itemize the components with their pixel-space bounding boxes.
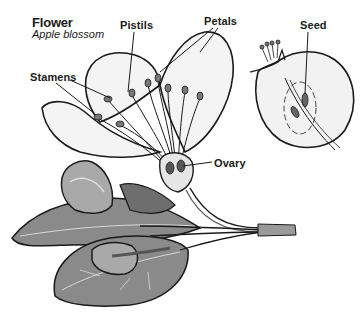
label-petals: Petals (204, 15, 237, 27)
diagram-canvas: Flower Apple blossom Pistils Petals Seed… (0, 0, 364, 324)
ovary (160, 153, 194, 192)
label-seed: Seed (300, 19, 327, 31)
label-pistils: Pistils (120, 19, 153, 31)
label-ovary: Ovary (214, 157, 246, 169)
flower-illustration (0, 0, 364, 324)
diagram-subtitle: Apple blossom (32, 28, 104, 40)
fruit-cross-section (250, 40, 354, 150)
label-stamens: Stamens (30, 71, 77, 83)
